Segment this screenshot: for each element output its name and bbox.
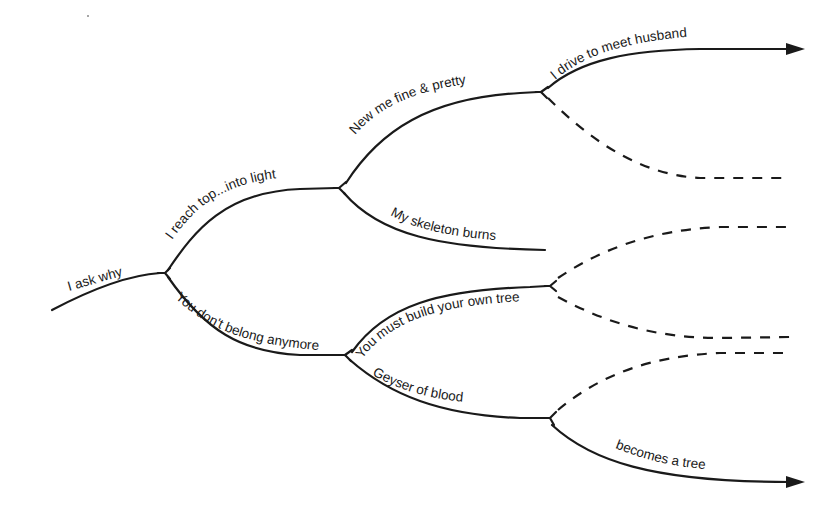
fork-node (334, 182, 346, 194)
branch-label: You don't belong anymore (173, 289, 320, 353)
dashed-branch-lower-upper-lower (558, 297, 790, 338)
fork-node (545, 281, 556, 291)
branching-tree-diagram: I ask why I reach top...into light New m… (0, 0, 840, 521)
fork-node (158, 268, 170, 279)
scan-speck (87, 15, 89, 17)
fork-node (340, 350, 352, 361)
dashed-branch-lower-lower-upper (558, 353, 790, 410)
branch-label: Geyser of blood (371, 364, 464, 404)
branch-label: I reach top...into light (162, 166, 277, 241)
arrowhead-icon (786, 43, 805, 55)
branch-label: My skeleton burns (389, 204, 498, 243)
arrowhead-icon (786, 476, 805, 488)
fork-node (545, 412, 556, 425)
dashed-branch-lower-upper-upper (558, 227, 787, 278)
branch-label: becomes a tree (614, 437, 706, 472)
dashed-branch-upper-upper-lower (548, 98, 782, 178)
fork-node (536, 87, 548, 98)
